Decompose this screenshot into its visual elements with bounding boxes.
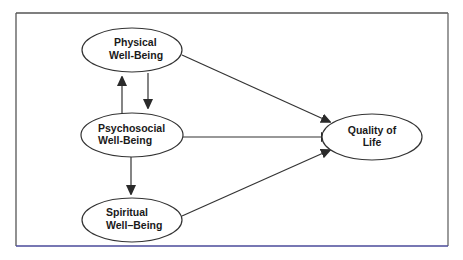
node-physical-well-being: Physical Well-Being (82, 28, 182, 72)
node-label-line2: Well-Being (109, 49, 163, 61)
node-label-line2: Life (363, 136, 382, 148)
edge-spiritual-to-quality (182, 150, 330, 216)
node-label-line1: Spiritual (106, 206, 148, 218)
node-psychosocial-well-being: Psychosocial Well-Being (81, 113, 183, 157)
node-label-line2: Well-Being (98, 134, 152, 146)
node-label-line1: Quality of (348, 124, 397, 136)
node-label-line2: Well–Being (106, 219, 162, 231)
node-label-line1: Physical (114, 36, 157, 48)
node-spiritual-well-being: Spiritual Well–Being (82, 198, 182, 242)
node-quality-of-life: Quality of Life (322, 114, 422, 160)
quality-of-life-model-diagram: Physical Well-Being Psychosocial Well-Be… (0, 0, 463, 260)
node-label-line1: Psychosocial (98, 122, 165, 134)
edge-physical-to-quality (182, 55, 330, 122)
